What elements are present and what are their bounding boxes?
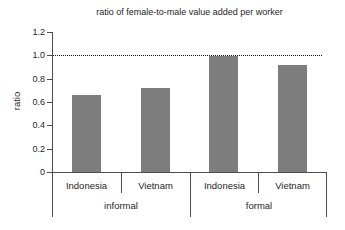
bar-informal-indonesia: [72, 95, 101, 172]
y-tick-label: 0.4: [20, 120, 45, 131]
category-label: Vietnam: [258, 180, 327, 192]
group-label-informal: informal: [52, 200, 190, 212]
bar-formal-vietnam: [278, 65, 307, 172]
y-tick-label: 0.2: [20, 144, 45, 155]
y-axis-line: [52, 32, 53, 173]
category-label: Vietnam: [121, 180, 190, 192]
y-tick-label: 0: [20, 167, 45, 178]
y-tick-label: 1.0: [20, 50, 45, 61]
bar-chart-figure: ratio of female-to-male value added per …: [0, 0, 345, 230]
y-tick: [47, 79, 52, 80]
y-tick-label: 0.8: [20, 74, 45, 85]
group-label-formal: formal: [190, 200, 328, 212]
category-label: Indonesia: [190, 180, 259, 192]
y-tick: [47, 55, 52, 56]
chart-title: ratio of female-to-male value added per …: [52, 7, 327, 17]
y-tick: [47, 32, 52, 33]
y-tick-label: 0.6: [20, 97, 45, 108]
y-tick: [47, 149, 52, 150]
y-tick: [47, 125, 52, 126]
category-label: Indonesia: [52, 180, 121, 192]
y-tick: [47, 102, 52, 103]
bar-formal-indonesia: [209, 56, 238, 172]
bar-informal-vietnam: [141, 88, 170, 172]
reference-line: [53, 55, 322, 56]
category-divider: [121, 172, 122, 193]
category-divider: [258, 172, 259, 193]
y-tick-label: 1.2: [20, 27, 45, 38]
